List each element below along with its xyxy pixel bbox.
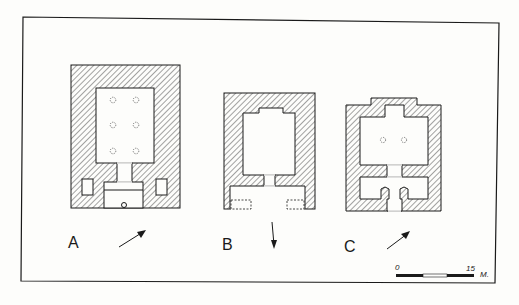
north-arrow-c-icon bbox=[387, 231, 410, 249]
plan-b-cella bbox=[243, 108, 295, 175]
plan-a-niche-right bbox=[156, 179, 167, 195]
north-arrow-b-icon bbox=[271, 222, 277, 249]
plan-c-corridor bbox=[387, 165, 402, 177]
figure-canvas: A B C 0 15 M. bbox=[0, 0, 519, 305]
plan-b-porch bbox=[230, 186, 305, 209]
plan-c bbox=[346, 98, 441, 211]
scale-start-label: 0 bbox=[395, 263, 400, 272]
plan-a-niche-left bbox=[82, 179, 93, 195]
plan-a-porch bbox=[104, 182, 143, 208]
plan-c-label: C bbox=[344, 238, 356, 255]
scale-end-label: 15 bbox=[466, 264, 475, 273]
north-arrow-a-icon bbox=[119, 230, 146, 247]
plan-b-label: B bbox=[222, 236, 233, 253]
plan-a-corridor bbox=[117, 163, 132, 182]
scale-unit-label: M. bbox=[480, 270, 489, 279]
plan-a bbox=[71, 65, 180, 208]
plan-b bbox=[224, 93, 315, 209]
plan-a-label: A bbox=[68, 234, 79, 251]
plan-b-corridor bbox=[264, 175, 275, 186]
plan-a-cella bbox=[96, 88, 154, 163]
scale-bar: 0 15 M. bbox=[395, 263, 489, 279]
